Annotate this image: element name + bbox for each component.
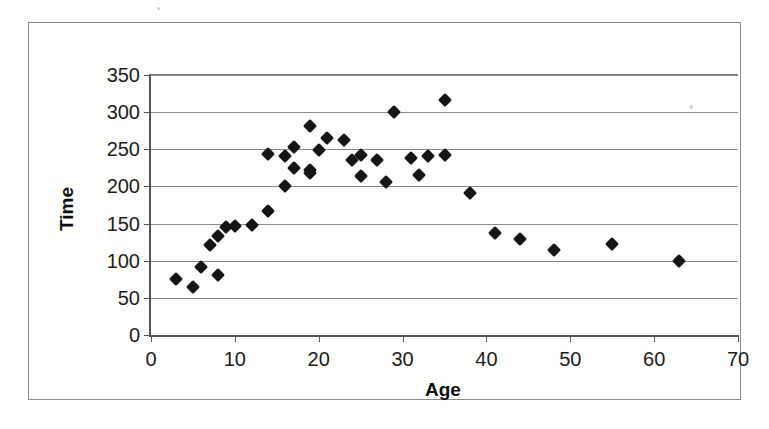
x-axis-tick [486, 335, 487, 342]
data-point-marker [437, 93, 451, 107]
y-axis-tick-label: 200 [107, 175, 140, 198]
x-axis-tick-label: 60 [643, 348, 665, 371]
data-point-marker [404, 151, 418, 165]
x-axis-tick-label: 20 [308, 348, 330, 371]
x-axis-tick-label: 50 [559, 348, 581, 371]
y-axis-tick [144, 261, 151, 262]
data-point-marker [337, 133, 351, 147]
x-axis-tick-label: 10 [224, 348, 246, 371]
data-point-marker [513, 232, 527, 246]
y-axis-tick-label: 150 [107, 212, 140, 235]
x-axis-tick [319, 335, 320, 342]
data-point-marker [463, 186, 477, 200]
x-axis-tick [654, 335, 655, 342]
gridline-horizontal [151, 112, 738, 113]
y-axis-tick-label: 0 [129, 324, 140, 347]
data-point-marker [286, 161, 300, 175]
x-axis-tick [738, 335, 739, 342]
x-axis-tick [151, 335, 152, 342]
y-axis-title: Time [56, 187, 78, 231]
data-point-marker [672, 254, 686, 268]
x-axis-tick [570, 335, 571, 342]
gridline-horizontal [151, 186, 738, 187]
data-point-marker [261, 204, 275, 218]
x-axis-tick-label: 0 [145, 348, 156, 371]
x-axis-tick-label: 30 [391, 348, 413, 371]
y-axis-tick-label: 250 [107, 138, 140, 161]
y-axis-tick [144, 75, 151, 76]
data-point-marker [186, 280, 200, 294]
plot-area: 050100150200250300350010203040506070 [149, 74, 738, 337]
data-point-marker [605, 237, 619, 251]
x-axis-tick-label: 40 [475, 348, 497, 371]
chart-outer-frame: 050100150200250300350010203040506070 Tim… [28, 22, 741, 400]
y-axis-tick-label: 300 [107, 101, 140, 124]
y-axis-tick-label: 350 [107, 64, 140, 87]
y-axis-tick-label: 50 [118, 286, 140, 309]
data-point-marker [312, 143, 326, 157]
data-point-marker [546, 243, 560, 257]
gridline-horizontal [151, 75, 738, 76]
y-axis-tick [144, 224, 151, 225]
data-point-marker [370, 153, 384, 167]
y-axis-tick [144, 149, 151, 150]
y-axis-tick [144, 186, 151, 187]
x-axis-tick [403, 335, 404, 342]
y-axis-tick-label: 100 [107, 249, 140, 272]
data-point-marker [320, 131, 334, 145]
x-axis-tick-label: 70 [727, 348, 749, 371]
gridline-horizontal [151, 261, 738, 262]
x-axis-tick [235, 335, 236, 342]
gridline-horizontal [151, 298, 738, 299]
x-axis-title: Age [425, 379, 461, 401]
data-point-marker [387, 105, 401, 119]
data-point-marker [245, 218, 259, 232]
data-point-marker [421, 149, 435, 163]
data-point-marker [303, 119, 317, 133]
data-point-marker [169, 271, 183, 285]
data-point-marker [194, 260, 208, 274]
data-point-marker [412, 167, 426, 181]
y-axis-tick [144, 298, 151, 299]
y-axis-tick [144, 335, 151, 336]
y-axis-tick [144, 112, 151, 113]
data-point-marker [228, 219, 242, 233]
data-point-marker [488, 226, 502, 240]
data-point-marker [278, 179, 292, 193]
data-point-marker [354, 169, 368, 183]
data-point-marker [211, 268, 225, 282]
